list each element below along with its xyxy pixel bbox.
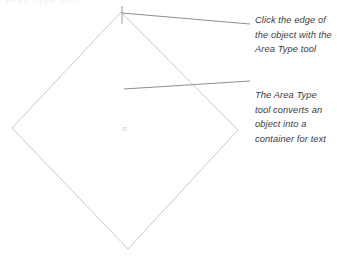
annotation-line: Click the edge of: [255, 13, 332, 28]
annotation-line: The Area Type: [255, 88, 326, 103]
leader-line-top: [122, 13, 250, 24]
annotation-line: tool converts an: [255, 103, 326, 118]
annotation-line: the object with the: [255, 28, 332, 43]
annotation-line: object into a: [255, 117, 326, 132]
annotation-line: Area Type tool: [255, 42, 332, 57]
annotation-line: container for text: [255, 132, 326, 147]
leader-line-bottom: [124, 81, 250, 89]
illustration-canvas: Area Type tool Click the edge of the obj…: [0, 0, 337, 261]
object-center-mark: [124, 128, 127, 131]
annotation-click-edge: Click the edge of the object with the Ar…: [255, 13, 332, 57]
annotation-area-type: The Area Type tool converts an object in…: [255, 88, 326, 146]
